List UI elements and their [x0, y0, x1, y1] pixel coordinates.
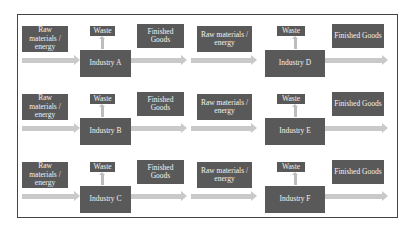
waste-arrow [294, 107, 297, 117]
output-arrow [131, 194, 181, 199]
output-arrow [131, 58, 181, 63]
waste-box: Waste [90, 94, 115, 104]
raw-materials-box: Raw materials / energy [22, 94, 68, 120]
waste-box: Waste [277, 162, 305, 172]
raw-materials-box: Raw materials / energy [22, 162, 68, 188]
output-arrow [325, 58, 382, 63]
industry-box: Industry D [265, 50, 325, 77]
finished-goods-box: Finished Goods [332, 92, 384, 116]
input-arrow [22, 194, 74, 199]
raw-materials-box: Raw materials / energy [22, 26, 68, 52]
output-arrow [325, 194, 382, 199]
input-arrow [191, 194, 251, 199]
industry-box: Industry A [80, 50, 131, 77]
waste-arrow [101, 107, 104, 117]
industry-box: Industry F [265, 186, 325, 213]
input-arrow [191, 126, 251, 131]
waste-arrow [101, 175, 104, 185]
waste-box: Waste [277, 94, 305, 104]
finished-goods-box: Finished Goods [137, 24, 184, 48]
industry-box: Industry B [80, 118, 131, 145]
waste-box: Waste [90, 162, 115, 172]
waste-arrow [294, 175, 297, 185]
raw-materials-box: Raw materials / energy [197, 26, 252, 52]
waste-box: Waste [90, 26, 115, 36]
raw-materials-box: Raw materials / energy [197, 94, 252, 120]
output-arrow [325, 126, 382, 131]
industry-box: Industry E [265, 118, 325, 145]
raw-materials-box: Raw materials / energy [197, 162, 252, 188]
output-arrow [131, 126, 181, 131]
industry-box: Industry C [80, 186, 131, 213]
finished-goods-box: Finished Goods [137, 92, 184, 116]
finished-goods-box: Finished Goods [332, 24, 384, 48]
waste-box: Waste [277, 26, 305, 36]
input-arrow [22, 126, 74, 131]
input-arrow [191, 58, 251, 63]
finished-goods-box: Finished Goods [332, 160, 384, 184]
waste-arrow [294, 39, 297, 49]
input-arrow [22, 58, 74, 63]
waste-arrow [101, 39, 104, 49]
finished-goods-box: Finished Goods [137, 160, 184, 184]
